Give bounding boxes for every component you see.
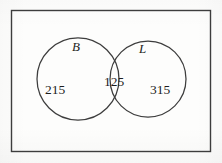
count-intersection: 125 bbox=[104, 75, 124, 89]
count-l-only: 315 bbox=[150, 83, 170, 97]
set-l-label: L bbox=[139, 42, 146, 55]
count-b-only: 215 bbox=[45, 83, 65, 97]
set-b-label: B bbox=[72, 40, 80, 53]
venn-diagram-figure: B L 215 125 315 bbox=[0, 0, 222, 163]
